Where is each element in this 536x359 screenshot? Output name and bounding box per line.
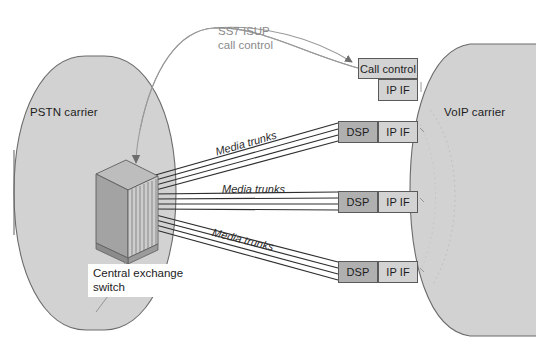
ss7-isup-label-line2: call control	[218, 38, 273, 52]
media-trunk-label-2: Media trunks	[222, 183, 285, 195]
ip-if-box-row-2[interactable]: IP IF	[378, 191, 418, 213]
dsp-box-row-1[interactable]: DSP	[338, 121, 378, 143]
ip-if-box-row-1[interactable]: IP IF	[378, 121, 418, 143]
dsp-box-row-2[interactable]: DSP	[338, 191, 378, 213]
voip-carrier-label: VoIP carrier	[444, 106, 505, 118]
diagram-vector-layer	[0, 0, 536, 359]
pstn-carrier-label: PSTN carrier	[30, 106, 98, 118]
ss7-isup-label-line1: SS7 ISUP	[218, 24, 273, 38]
dsp-box-row-3[interactable]: DSP	[338, 261, 378, 283]
ip-if-box-row-3[interactable]: IP IF	[378, 261, 418, 283]
media-trunk-bundle-1	[152, 123, 338, 191]
diagram-canvas: PSTN carrier VoIP carrier SS7 ISUP call …	[0, 0, 536, 359]
central-exchange-switch-shape	[96, 160, 158, 264]
call-control-ip-if-box[interactable]: IP IF	[378, 79, 418, 101]
central-exchange-switch-label-line1: Central exchange	[93, 266, 183, 280]
central-exchange-switch-label-line2: switch	[93, 280, 183, 294]
voip-carrier-shape	[410, 44, 536, 336]
call-control-box[interactable]: Call control	[358, 58, 418, 79]
central-exchange-switch-label: Central exchange switch	[88, 264, 187, 297]
ss7-isup-label: SS7 ISUP call control	[218, 24, 273, 52]
